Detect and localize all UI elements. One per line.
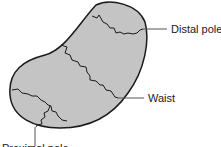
bone-outline bbox=[10, 2, 147, 128]
label-distal-pole: Distal pole bbox=[171, 23, 221, 35]
label-proximal-pole: Proximal pole bbox=[2, 142, 69, 147]
label-waist: Waist bbox=[148, 92, 175, 104]
